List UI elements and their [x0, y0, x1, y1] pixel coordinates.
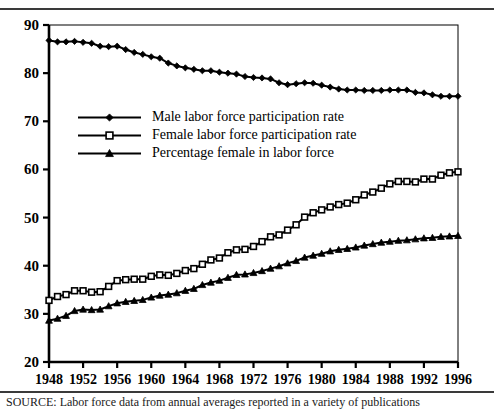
x-tick-label: 1960 [137, 372, 165, 387]
y-axis-ticks: 2030405060708090 [24, 17, 49, 370]
bottom-horizontal-rule [0, 391, 494, 393]
legend-item-label: Male labor force participation rate [152, 109, 344, 124]
y-tick-label: 50 [24, 210, 39, 226]
line-chart: 2030405060708090 19481952195619601964196… [0, 0, 494, 391]
x-axis-ticks: 1948195219561960196419681972197619801984… [35, 362, 472, 387]
x-tick-label: 1952 [69, 372, 97, 387]
figure-caption: SOURCE: Labor force data from annual ave… [6, 396, 492, 409]
y-tick-label: 40 [24, 258, 39, 274]
data-series [46, 169, 461, 303]
legend-item: Female labor force participation rate [78, 127, 356, 142]
data-series-group [46, 37, 462, 323]
x-tick-label: 1968 [205, 372, 233, 387]
chart-legend: Male labor force participation rateFemal… [78, 109, 356, 160]
x-tick-label: 1964 [171, 372, 199, 387]
x-tick-label: 1988 [376, 372, 404, 387]
data-series [46, 37, 461, 99]
legend-item: Male labor force participation rate [78, 109, 344, 124]
y-tick-label: 90 [24, 17, 39, 33]
y-tick-label: 80 [24, 65, 39, 81]
x-tick-label: 1976 [274, 372, 302, 387]
y-tick-label: 20 [24, 354, 39, 370]
x-tick-label: 1996 [444, 372, 472, 387]
x-tick-label: 1980 [308, 372, 336, 387]
legend-item-label: Percentage female in labor force [152, 145, 334, 160]
x-tick-label: 1992 [410, 372, 438, 387]
x-tick-label: 1948 [35, 372, 63, 387]
y-tick-label: 70 [24, 113, 39, 129]
y-tick-label: 30 [24, 306, 39, 322]
x-tick-label: 1972 [240, 372, 268, 387]
x-tick-label: 1956 [103, 372, 131, 387]
x-tick-label: 1984 [342, 372, 370, 387]
legend-item: Percentage female in labor force [78, 145, 334, 160]
y-tick-label: 60 [24, 161, 39, 177]
legend-item-label: Female labor force participation rate [152, 127, 356, 142]
